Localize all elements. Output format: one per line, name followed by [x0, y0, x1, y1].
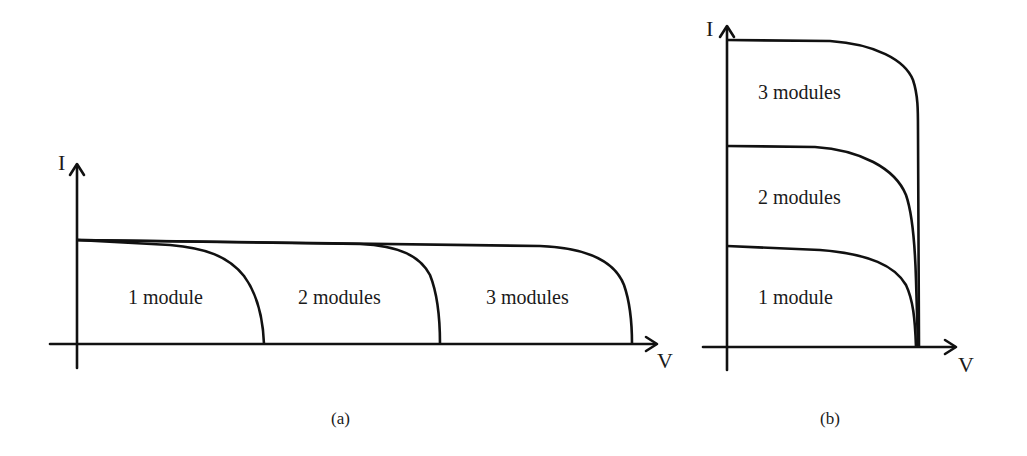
panel-b-curve-label-3: 3 modules — [758, 81, 841, 103]
panel-b-caption: (b) — [820, 409, 840, 428]
iv-curves-figure: I V 1 module 2 modules 3 modules (a) I V… — [0, 0, 1027, 456]
panel-b: I V 3 modules 2 modules 1 module (b) — [703, 16, 974, 428]
panel-a-curve-label-3: 3 modules — [486, 286, 569, 308]
panel-a-y-label: I — [58, 150, 65, 175]
panel-b-curve-label-2: 2 modules — [758, 186, 841, 208]
panel-a-curve-label-2: 2 modules — [298, 286, 381, 308]
panel-a-curve-label-1: 1 module — [128, 286, 203, 308]
panel-b-curve-label-1: 1 module — [758, 286, 833, 308]
panel-b-y-label: I — [706, 16, 713, 41]
panel-b-x-label: V — [958, 352, 974, 377]
panel-a-x-label: V — [657, 348, 673, 373]
panel-a-caption: (a) — [331, 409, 350, 428]
panel-a: I V 1 module 2 modules 3 modules (a) — [50, 150, 673, 428]
